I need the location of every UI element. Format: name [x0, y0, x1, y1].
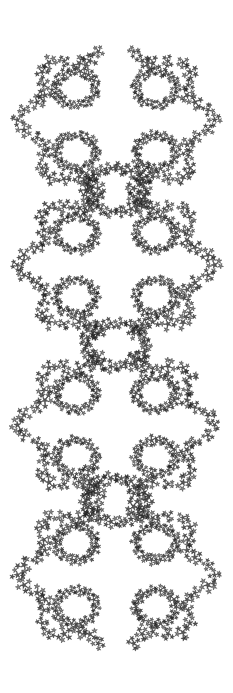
star-glyph — [185, 161, 190, 166]
star-glyph — [137, 318, 142, 323]
star-glyph — [24, 428, 29, 433]
star-glyph — [172, 93, 177, 97]
star-glyph — [193, 621, 198, 626]
star-glyph — [40, 226, 47, 233]
star-glyph — [149, 374, 154, 379]
star-glyph — [68, 275, 72, 279]
star-glyph — [45, 60, 52, 67]
star-glyph — [86, 244, 91, 249]
star-glyph — [134, 299, 138, 303]
star-glyph — [185, 227, 190, 233]
star-glyph — [46, 393, 52, 399]
star-glyph — [51, 451, 55, 455]
star-glyph — [165, 200, 169, 204]
star-glyph — [157, 243, 161, 247]
star-glyph — [169, 316, 174, 322]
star-glyph — [179, 313, 185, 319]
star-glyph — [69, 214, 74, 218]
star-glyph — [140, 313, 145, 317]
star-glyph — [66, 366, 71, 371]
star-glyph — [19, 104, 23, 108]
star-glyph — [78, 471, 83, 476]
star-glyph — [96, 640, 102, 646]
star-glyph — [86, 217, 91, 222]
star-glyph — [154, 590, 158, 594]
star-glyph — [198, 557, 203, 563]
star-glyph — [173, 295, 178, 300]
star-glyph — [203, 247, 208, 252]
star-glyph — [128, 516, 134, 522]
star-glyph — [96, 646, 101, 651]
star-glyph — [205, 107, 211, 113]
star-glyph — [62, 168, 66, 172]
star-glyph — [164, 438, 168, 442]
star-glyph — [200, 578, 206, 584]
star-glyph — [206, 558, 210, 562]
star-glyph — [167, 382, 171, 386]
star-glyph — [69, 557, 74, 562]
star-glyph — [59, 446, 63, 450]
star-glyph — [54, 454, 59, 459]
star-glyph — [78, 247, 84, 252]
star-glyph — [101, 643, 106, 648]
star-glyph — [162, 100, 166, 104]
star-glyph — [39, 214, 46, 221]
star-glyph — [168, 598, 172, 602]
star-glyph — [138, 589, 142, 593]
star-glyph — [169, 279, 173, 283]
star-glyph — [133, 390, 139, 396]
star-glyph — [153, 250, 157, 254]
star-glyph — [168, 80, 172, 84]
star-glyph — [178, 540, 181, 543]
star-glyph — [171, 366, 177, 372]
star-glyph — [180, 365, 186, 371]
star-glyph — [187, 320, 193, 326]
star-glyph — [90, 558, 95, 563]
star-glyph — [67, 512, 72, 517]
star-glyph — [82, 473, 86, 477]
star-glyph — [46, 601, 51, 606]
star-glyph — [175, 626, 181, 632]
star-glyph — [51, 483, 57, 489]
star-glyph — [47, 546, 52, 551]
star-glyph — [144, 141, 148, 145]
star-glyph — [30, 405, 35, 410]
star-glyph — [71, 321, 77, 327]
star-glyph — [136, 228, 140, 232]
star-glyph — [45, 461, 50, 466]
star-glyph — [96, 158, 100, 162]
star-glyph — [56, 100, 61, 105]
star-glyph — [35, 166, 40, 171]
star-glyph — [131, 490, 137, 496]
star-glyph — [192, 66, 198, 72]
star-glyph — [133, 304, 137, 308]
star-glyph — [216, 258, 222, 264]
star-glyph — [26, 256, 31, 261]
star-glyph — [35, 620, 40, 625]
star-glyph — [76, 515, 83, 522]
star-glyph — [204, 567, 208, 571]
star-glyph — [61, 72, 67, 77]
star-glyph — [210, 561, 214, 565]
star-glyph — [179, 174, 186, 181]
star-glyph — [128, 367, 133, 372]
star-glyph — [142, 282, 146, 286]
star-glyph — [46, 364, 52, 370]
star-glyph — [27, 275, 32, 280]
star-glyph — [150, 484, 155, 489]
star-glyph — [173, 538, 177, 542]
star-glyph — [170, 311, 175, 315]
star-glyph — [108, 209, 114, 215]
star-glyph — [180, 486, 186, 492]
star-glyph — [185, 171, 191, 177]
star-glyph — [170, 177, 174, 182]
star-glyph — [144, 331, 148, 335]
star-glyph — [205, 278, 210, 283]
star-glyph — [56, 634, 62, 640]
star-glyph — [39, 69, 45, 75]
star-glyph — [83, 249, 88, 253]
star-glyph — [79, 283, 83, 287]
star-glyph — [64, 523, 69, 528]
star-glyph — [181, 387, 185, 392]
star-glyph — [73, 281, 77, 285]
